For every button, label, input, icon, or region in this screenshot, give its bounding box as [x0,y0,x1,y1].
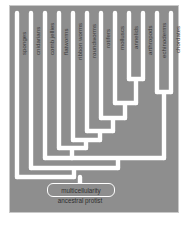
node-annelids-arthropods [129,79,143,103]
tip-label-ribbon-worms: ribbon worms [76,23,83,60]
tip-label-chordates: chordates [174,26,181,53]
tip-label-echinoderms: echinoderms [160,23,167,58]
node-molluscs-clade [115,103,136,118]
tip-label-rotifers: rotifers [104,29,111,48]
tip-label-roundworms: roundworms [90,24,97,58]
tip-label-sponges: sponges [20,32,27,55]
node-echinoderms-chordates [157,92,171,158]
tip-label-molluscs: molluscs [118,26,125,50]
tip-label-flatworms: flatworms [62,28,69,55]
tip-label-annelids: annelids [132,26,139,49]
tip-label-arthropods: arthropods [146,25,153,55]
tip-label-comb-jellies: comb jellies [48,23,55,55]
multicellularity-label: multicellularity [61,187,101,194]
tip-label-cnidarians: cnidarians [34,27,41,55]
cladogram-figure: sponges cnidarians comb jellies flatworm… [0,0,189,228]
multicellularity-badge: multicellularity [47,183,115,197]
ancestral-protist-label: ancestral protist [47,197,113,204]
